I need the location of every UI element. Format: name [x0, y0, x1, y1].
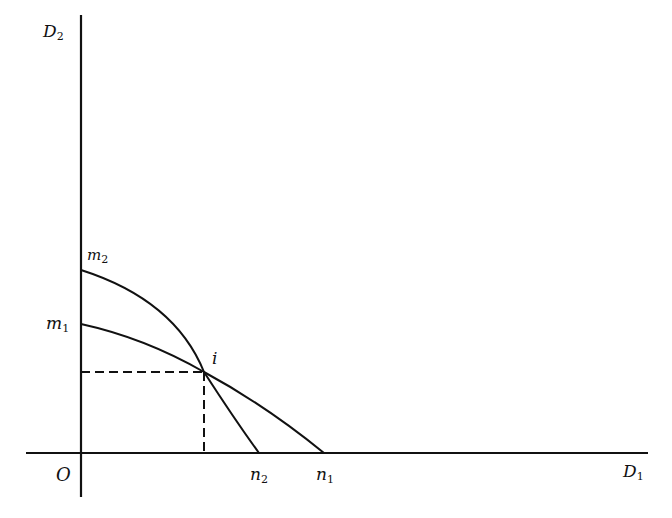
m2-base: m — [87, 246, 101, 264]
curve-m1-n1 — [81, 324, 324, 453]
n1-sub: 1 — [327, 473, 334, 486]
n1-base: n — [316, 464, 327, 484]
x-axis-label-base: D — [623, 461, 637, 481]
point-label-n2: n2 — [250, 466, 268, 485]
point-label-n1: n1 — [316, 466, 334, 485]
point-label-i: i — [212, 350, 217, 367]
curve-m2-n2 — [81, 270, 259, 453]
x-axis-label-sub: 1 — [637, 470, 644, 483]
y-axis-label-base: D — [43, 21, 57, 41]
y-axis-label-sub: 2 — [57, 30, 64, 43]
m2-sub: 2 — [101, 253, 108, 266]
point-label-m1: m1 — [46, 315, 69, 334]
origin-label: O — [56, 466, 71, 484]
x-axis-label: D1 — [623, 463, 644, 482]
n2-base: n — [250, 464, 261, 484]
m1-base: m — [46, 313, 62, 333]
y-axis-label: D2 — [43, 23, 64, 42]
point-label-m2: m2 — [87, 248, 108, 265]
m1-sub: 1 — [62, 322, 69, 335]
n2-sub: 2 — [261, 473, 268, 486]
